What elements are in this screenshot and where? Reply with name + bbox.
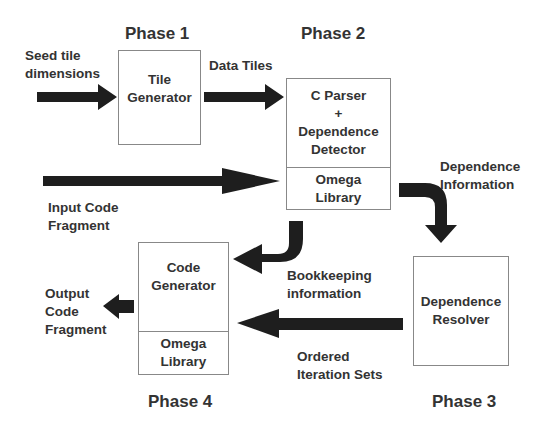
arrow-seed-to-tile-generator	[37, 84, 117, 110]
code-generator-cell: Code Generator	[139, 243, 228, 331]
phase-1-label: Phase 1	[125, 24, 189, 44]
input-code-fragment-label: Input Code Fragment	[48, 199, 119, 235]
ordered-sets-line1: Ordered	[297, 348, 383, 366]
phase-4-label: Phase 4	[148, 392, 212, 412]
parser-detector-cell: C Parser + Dependence Detector	[287, 79, 390, 167]
parser-line: C Parser	[311, 87, 367, 105]
library-line: Library	[161, 353, 207, 371]
output-code-line2: Code	[45, 303, 107, 321]
omega-library-cell-phase4: Omega Library	[139, 331, 228, 374]
parser-detector-box: C Parser + Dependence Detector Omega Lib…	[286, 78, 391, 210]
dependence-info-line1: Dependence	[440, 158, 520, 176]
arrow-data-tiles	[204, 84, 284, 110]
arrow-output-code	[103, 294, 134, 319]
output-code-fragment-label: Output Code Fragment	[45, 285, 107, 339]
seed-tile-line2: dimensions	[25, 65, 100, 83]
input-code-line2: Fragment	[48, 217, 119, 235]
code-generator-line2: Generator	[151, 277, 216, 295]
seed-tile-line1: Seed tile	[25, 47, 100, 65]
phase-3-label: Phase 3	[432, 392, 496, 412]
seed-tile-dimensions-label: Seed tile dimensions	[25, 47, 100, 83]
phase-2-label: Phase 2	[301, 24, 365, 44]
resolver-line1: Dependence	[421, 293, 501, 311]
omega-line: Omega	[161, 335, 207, 353]
resolver-line2: Resolver	[432, 311, 489, 329]
library-line: Library	[316, 189, 362, 207]
arrow-input-code	[43, 168, 280, 194]
input-code-line1: Input Code	[48, 199, 119, 217]
tile-generator-box: Tile Generator	[118, 50, 201, 145]
arrow-ordered-iteration-sets	[237, 309, 403, 338]
omega-line: Omega	[316, 171, 362, 189]
output-code-line1: Output	[45, 285, 107, 303]
ordered-iteration-sets-label: Ordered Iteration Sets	[297, 348, 383, 384]
ordered-sets-line2: Iteration Sets	[297, 366, 383, 384]
bookkeeping-line1: Bookkeeping	[287, 267, 372, 285]
dependence-resolver-cell: Dependence Resolver	[414, 257, 508, 365]
bookkeeping-line2: information	[287, 285, 372, 303]
tile-generator-line1: Tile	[148, 71, 171, 89]
omega-library-cell-phase2: Omega Library	[287, 167, 390, 209]
tile-generator-line2: Generator	[127, 89, 192, 107]
detector-line: Detector	[311, 141, 366, 159]
dependence-information-label: Dependence Information	[440, 158, 520, 194]
tile-generator-cell: Tile Generator	[119, 51, 200, 144]
dependence-line: Dependence	[298, 123, 378, 141]
output-code-line3: Fragment	[45, 321, 107, 339]
bookkeeping-information-label: Bookkeeping information	[287, 267, 372, 303]
data-tiles-label: Data Tiles	[209, 57, 273, 75]
plus-line: +	[335, 105, 343, 123]
code-generator-box: Code Generator Omega Library	[138, 242, 229, 375]
code-generator-line1: Code	[167, 259, 201, 277]
dependence-resolver-box: Dependence Resolver	[413, 256, 509, 366]
dependence-info-line2: Information	[440, 176, 520, 194]
